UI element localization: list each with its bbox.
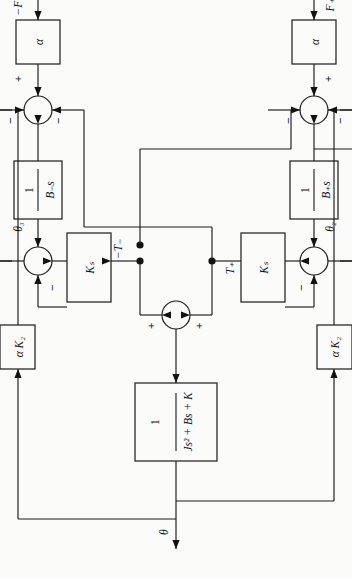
integrator-block-right: 1 B₋s [14, 124, 62, 219]
top-sum-sign-left: + [193, 323, 205, 329]
gain-ks-right-label: Kₛ [84, 261, 96, 275]
plant-numerator-label: 1 [149, 419, 161, 425]
integrator-right-numerator: 1 [23, 187, 35, 193]
integrator-right-denominator: B₋s [44, 181, 56, 199]
alpha-right-label: α [33, 38, 45, 45]
bottom-sum-right-fb2-sign: − [4, 118, 16, 124]
mid-sum-left-sign: − [295, 285, 307, 291]
top-sum-sign-right: + [145, 323, 157, 329]
gain-ks-left-label: Kₛ [258, 261, 270, 275]
bottom-sum-left-fb1-sign: − [282, 118, 294, 124]
top-summing-junction: + + [140, 261, 212, 383]
plant-denominator-label: Js² + Bs + K [182, 391, 194, 452]
gain-block-ks-right: Kₛ [52, 233, 140, 302]
mid-summing-junction-left: − [285, 247, 352, 307]
signal-theta3: θ₃ [12, 219, 42, 247]
bottom-sum-left-input-sign: + [322, 76, 334, 82]
input-label-f-plus: F₊ [324, 0, 336, 13]
ak2-left-label: α K₂ [329, 337, 341, 358]
signal-label-t-minus: −T₋ [112, 239, 124, 259]
rotated-diagram-wrapper: θ 1 Js² + Bs + K + + T₊ [0, 0, 352, 579]
block-diagram-svg: θ 1 Js² + Bs + K + + T₊ [0, 0, 352, 579]
plant-block: 1 Js² + Bs + K [135, 383, 217, 461]
input-label-f-minus: −F₋ [12, 0, 24, 15]
alpha-left-label: α [309, 38, 321, 45]
mid-summing-junction-right: − [0, 247, 67, 307]
mid-sum-right-sign: − [46, 285, 58, 291]
bottom-summing-junction-right: − − + [0, 64, 84, 124]
integrator-block-left: 1 B₊s [290, 124, 338, 219]
output-label-theta: θ [158, 529, 170, 535]
bottom-sum-right-input-sign: + [12, 76, 24, 82]
bottom-summing-junction-left: − − + [268, 64, 352, 124]
integrator-left-numerator: 1 [299, 187, 311, 193]
output-arrow-theta: θ [158, 461, 180, 549]
bottom-sum-right-fb1-sign: − [52, 118, 64, 124]
integrator-left-denominator: B₊s [320, 181, 332, 199]
ak2-right-label: α K₂ [13, 337, 25, 358]
cross-link-tminus-to-lower-sum [140, 110, 291, 245]
signal-label-t-plus: T₊ [224, 262, 236, 274]
signal-theta2: θ₂ [310, 219, 336, 247]
bottom-sum-left-fb2-sign: − [334, 118, 346, 124]
figure-canvas: θ 1 Js² + Bs + K + + T₊ [0, 0, 352, 579]
